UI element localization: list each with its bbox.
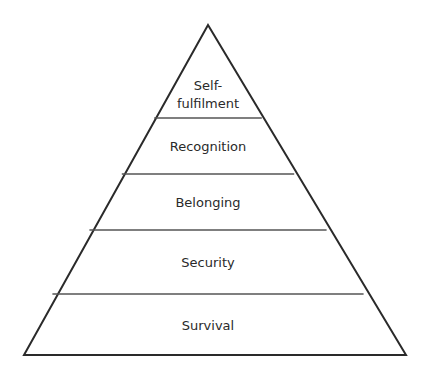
pyramid-outline [24, 25, 406, 355]
level-security: Security [181, 255, 235, 270]
level-self-fulfilment-line1: Self- [194, 78, 223, 93]
pyramid-diagram: Self- fulfilment Recognition Belonging S… [0, 0, 427, 375]
level-recognition: Recognition [170, 139, 247, 154]
level-self-fulfilment-line2: fulfilment [177, 96, 239, 111]
level-belonging: Belonging [175, 195, 240, 210]
level-survival: Survival [182, 318, 234, 333]
